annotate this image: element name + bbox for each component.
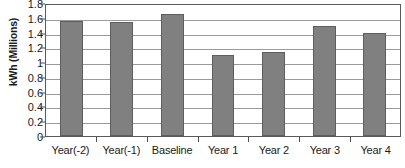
y-axis-tick-label: 1.2 bbox=[16, 42, 43, 54]
bar-slot bbox=[147, 5, 198, 136]
x-axis-tick-label: Year 3 bbox=[299, 144, 350, 156]
y-axis-tick-labels: 1.81.61.41.210.80.60.40.20 bbox=[16, 4, 43, 137]
bar bbox=[60, 21, 83, 136]
y-axis-tick-label: 0.6 bbox=[16, 87, 43, 99]
x-axis-tick-labels: Year(-2)Year(-1)BaselineYear 1Year 2Year… bbox=[45, 144, 401, 156]
x-axis-tick-label: Year(-2) bbox=[45, 144, 96, 156]
bar-slot bbox=[198, 5, 249, 136]
x-axis-tick-mark bbox=[248, 137, 249, 142]
bar-slot bbox=[299, 5, 350, 136]
y-axis-tick-label: 1.4 bbox=[16, 28, 43, 40]
x-axis-tick-mark bbox=[299, 137, 300, 142]
y-axis-tick-label: 0.4 bbox=[16, 101, 43, 113]
bar-slot bbox=[97, 5, 148, 136]
y-axis-tick-label: 0.2 bbox=[16, 116, 43, 128]
x-axis-tick-label: Year 2 bbox=[248, 144, 299, 156]
bar bbox=[110, 22, 133, 136]
bar bbox=[262, 52, 285, 136]
bar-slot bbox=[349, 5, 400, 136]
bar bbox=[161, 14, 184, 136]
bar-slot bbox=[46, 5, 97, 136]
y-axis-tick-label: 0.8 bbox=[16, 72, 43, 84]
y-axis-tick-label: 1.8 bbox=[16, 0, 43, 10]
y-axis-tick-label: 1.6 bbox=[16, 13, 43, 25]
y-axis-tick-label: 1 bbox=[16, 57, 43, 69]
x-axis-tick-mark bbox=[147, 137, 148, 142]
x-axis-tick-mark bbox=[96, 137, 97, 142]
bar bbox=[313, 26, 336, 136]
bars-container bbox=[46, 5, 400, 136]
x-axis-tick-label: Year 1 bbox=[198, 144, 249, 156]
x-axis-tick-mark bbox=[198, 137, 199, 142]
x-axis-tick-marks bbox=[45, 137, 401, 142]
bar-chart: kWh (Millions) 1.81.61.41.210.80.60.40.2… bbox=[0, 0, 405, 168]
plot-area bbox=[45, 4, 401, 137]
x-axis-tick-label: Year 4 bbox=[350, 144, 401, 156]
bar bbox=[212, 55, 235, 136]
bar-slot bbox=[248, 5, 299, 136]
x-axis-tick-label: Baseline bbox=[147, 144, 198, 156]
bar bbox=[363, 33, 386, 136]
x-axis-tick-mark bbox=[350, 137, 351, 142]
x-axis-tick-label: Year(-1) bbox=[96, 144, 147, 156]
y-axis-tick-label: 0 bbox=[16, 131, 43, 143]
